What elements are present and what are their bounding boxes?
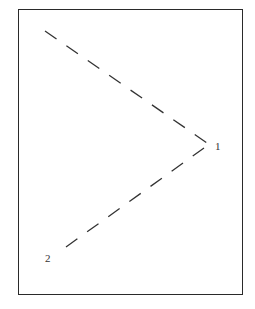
point-label-1: 1 — [215, 141, 221, 152]
point-label-2: 2 — [45, 253, 51, 264]
upper-dashed-line — [45, 31, 210, 145]
lower-dashed-line — [66, 148, 204, 247]
dashed-lines-canvas — [0, 0, 255, 309]
